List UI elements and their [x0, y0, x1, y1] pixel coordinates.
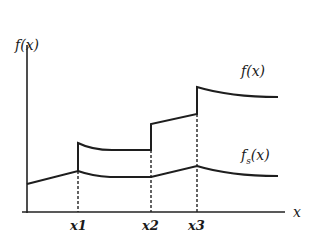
- f-curve-label: f(x): [240, 63, 265, 79]
- fs-curve: [27, 166, 278, 184]
- tick-x1: x1: [69, 218, 87, 233]
- function-plot: f(x) x f(x) fs(x) x1 x2 x3: [0, 0, 310, 239]
- tick-x3: x3: [187, 218, 205, 233]
- tick-x2: x2: [141, 218, 159, 233]
- fs-curve-label: fs(x): [240, 147, 270, 166]
- diagram-canvas: f(x) x f(x) fs(x) x1 x2 x3: [0, 0, 310, 239]
- x-axis-label: x: [293, 204, 301, 220]
- y-axis-label: f(x): [14, 37, 39, 53]
